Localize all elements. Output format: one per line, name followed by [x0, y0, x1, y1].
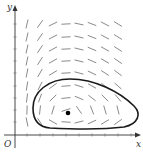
slope-segment — [38, 46, 43, 53]
slope-segment — [101, 71, 108, 76]
y-axis-arrow-icon — [13, 5, 18, 11]
slope-segment — [49, 59, 56, 63]
slope-segment — [62, 73, 70, 74]
phase-plane-svg: y x O — [0, 0, 143, 153]
slope-segment — [26, 33, 28, 41]
slope-segment — [89, 95, 96, 100]
slope-segment — [114, 35, 121, 39]
slope-segment — [26, 20, 28, 28]
slope-segment — [88, 71, 96, 75]
slope-segment — [75, 60, 83, 62]
slope-segment — [26, 57, 28, 65]
slope-segment — [26, 118, 28, 126]
slope-segment — [75, 48, 83, 50]
slope-segment — [62, 98, 70, 99]
x-axis-label: x — [136, 139, 141, 149]
slope-segment — [77, 107, 82, 114]
slope-segment — [75, 85, 83, 88]
y-axis-label: y — [6, 2, 13, 12]
slope-segment — [39, 94, 42, 102]
slope-segment — [101, 47, 108, 51]
slope-segment — [88, 84, 95, 88]
slope-segment — [101, 59, 108, 63]
direction-field — [26, 20, 122, 126]
phase-plane-figure: y x O — [0, 0, 143, 153]
slope-segment — [38, 69, 42, 76]
slope-segment — [50, 95, 56, 101]
closed-trajectory-curve — [33, 79, 138, 129]
slope-segment — [114, 47, 121, 52]
slope-segment — [49, 71, 56, 75]
slope-segment — [26, 69, 28, 77]
slope-segment — [26, 82, 27, 90]
slope-segment — [62, 86, 70, 87]
slope-segment — [115, 83, 121, 89]
slope-segment — [88, 35, 96, 38]
slope-segment — [104, 106, 106, 114]
slope-segment — [88, 59, 96, 62]
slope-segment — [52, 106, 54, 114]
slope-segment — [88, 47, 96, 50]
slope-segment — [102, 95, 108, 101]
slope-segment — [50, 84, 57, 89]
slope-segment — [115, 95, 120, 101]
equilibrium-point — [66, 111, 71, 116]
slope-segment — [75, 23, 83, 25]
slope-segment — [114, 22, 121, 26]
slope-segment — [88, 22, 96, 25]
slope-segment — [75, 36, 83, 38]
slope-segment — [101, 120, 108, 124]
origin-label: O — [4, 139, 12, 149]
slope-segment — [88, 120, 96, 123]
slope-segment — [90, 106, 93, 114]
slope-segment — [75, 96, 83, 99]
slope-segment — [26, 45, 28, 53]
slope-segment — [49, 47, 56, 51]
slope-segment — [38, 57, 42, 64]
x-axis-arrow-icon — [135, 133, 141, 138]
slope-segment — [38, 34, 43, 41]
slope-segment — [75, 121, 83, 123]
slope-segment — [75, 72, 83, 74]
slope-segment — [49, 35, 56, 39]
slope-segment — [115, 120, 122, 125]
slope-segment — [49, 22, 57, 26]
slope-segment — [115, 59, 122, 64]
slope-segment — [40, 106, 41, 114]
slope-segment — [27, 94, 28, 102]
slope-segment — [115, 70, 122, 75]
slope-segment — [49, 120, 56, 124]
axis-ticks — [14, 24, 132, 137]
slope-segment — [38, 21, 43, 28]
slope-segment — [101, 22, 108, 26]
slope-segment — [117, 106, 119, 114]
slope-segment — [101, 35, 108, 39]
